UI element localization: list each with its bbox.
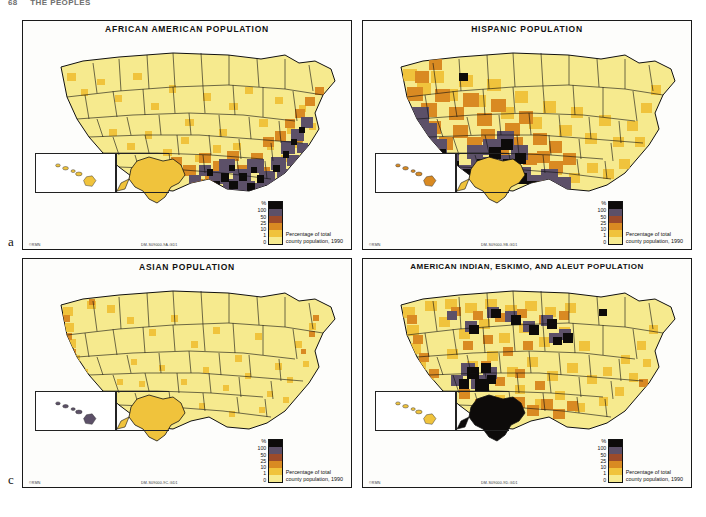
legend-swatch (609, 223, 622, 230)
legend-tick-labels: % 100 50 25 10 1 0 (595, 201, 606, 245)
legend-swatch (269, 223, 282, 230)
legend-color-ramp (268, 439, 283, 483)
panel-american-indian[interactable]: AMERICAN INDIAN, ESKIMO, AND ALEUT POPUL… (362, 258, 692, 488)
legend-swatch (269, 216, 282, 223)
map-code: DM-S09000-9B-GD1 (481, 243, 518, 247)
legend: % 100 50 25 10 1 0 Percen (255, 439, 343, 483)
panel-title: AMERICAN INDIAN, ESKIMO, AND ALEUT POPUL… (363, 262, 691, 271)
legend-swatch (269, 230, 282, 237)
legend-caption-line2: county population, 1990 (626, 238, 683, 245)
legend-caption-line2: county population, 1990 (626, 476, 683, 483)
legend-swatch (609, 202, 622, 209)
legend-swatch (609, 209, 622, 216)
legend-tick: 0 (255, 478, 266, 483)
map-code: DM-S09000-9C-GD1 (141, 481, 178, 485)
legend: % 100 50 25 10 1 0 Percen (255, 201, 343, 245)
legend-caption: Percentage of total county population, 1… (626, 469, 683, 484)
legend-caption: Percentage of total county population, 1… (286, 469, 343, 484)
legend-color-ramp (268, 201, 283, 245)
legend-swatch (609, 216, 622, 223)
alaska-inset (115, 153, 201, 215)
map-credit: ©RMN (369, 243, 381, 247)
panel-letter-a: a (8, 234, 14, 250)
hawaii-inset (375, 391, 457, 431)
legend-tick: 0 (255, 240, 266, 245)
legend-swatch (609, 461, 622, 468)
hawaii-inset (375, 153, 457, 193)
legend-scale: % 100 50 25 10 1 0 (595, 201, 623, 245)
legend-tick: 1 (595, 233, 606, 238)
legend: % 100 50 25 10 1 0 Percen (595, 439, 683, 483)
legend-swatch (609, 230, 622, 237)
legend: % 100 50 25 10 1 0 Percen (595, 201, 683, 245)
legend-tick: 100 (595, 446, 606, 451)
map-credit: ©RMN (29, 243, 41, 247)
legend-swatch (609, 468, 622, 475)
page-number: 68 (8, 0, 18, 7)
legend-color-ramp (608, 201, 623, 245)
legend-unit: % (255, 201, 266, 207)
legend-caption: Percentage of total county population, 1… (286, 231, 343, 246)
page-title: THE PEOPLES (30, 0, 90, 7)
legend-swatch (269, 468, 282, 475)
alaska-inset (455, 153, 541, 215)
panel-hispanic[interactable]: HISPANIC POPULATION (362, 20, 692, 250)
legend-tick-labels: % 100 50 25 10 1 0 (255, 201, 266, 245)
map-code: DM-S09000-9D-GD1 (481, 481, 518, 485)
legend-swatch (609, 447, 622, 454)
alaska-inset (115, 391, 201, 453)
legend-tick: 1 (255, 471, 266, 476)
map-credit: ©RMN (29, 481, 41, 485)
map-code: DM-S09000-9A-GD1 (141, 243, 178, 247)
legend-swatch (269, 447, 282, 454)
legend-swatch (609, 454, 622, 461)
legend-unit: % (595, 439, 606, 445)
legend-tick-labels: % 100 50 25 10 1 0 (595, 439, 606, 483)
alaska-inset (455, 391, 541, 453)
legend-tick: 50 (255, 215, 266, 220)
legend-caption-line1: Percentage of total (626, 469, 683, 476)
legend-unit: % (595, 201, 606, 207)
panel-letter-c: c (8, 472, 14, 488)
legend-tick: 50 (595, 215, 606, 220)
hawaii-inset (35, 391, 117, 431)
legend-tick-labels: % 100 50 25 10 1 0 (255, 439, 266, 483)
legend-caption-line2: county population, 1990 (286, 238, 343, 245)
legend-caption: Percentage of total county population, 1… (626, 231, 683, 246)
legend-swatch (269, 454, 282, 461)
legend-tick: 100 (255, 208, 266, 213)
legend-tick: 50 (255, 453, 266, 458)
legend-swatch (609, 440, 622, 447)
legend-tick: 100 (595, 208, 606, 213)
legend-tick: 50 (595, 453, 606, 458)
legend-tick: 100 (255, 446, 266, 451)
legend-scale: % 100 50 25 10 1 0 (255, 201, 283, 245)
legend-tick: 1 (255, 233, 266, 238)
legend-swatch (269, 440, 282, 447)
hawaii-inset (35, 153, 117, 193)
legend-swatch (609, 237, 622, 244)
legend-caption-line1: Percentage of total (286, 469, 343, 476)
map-credit: ©RMN (369, 481, 381, 485)
legend-swatch (269, 475, 282, 482)
legend-scale: % 100 50 25 10 1 0 (255, 439, 283, 483)
legend-tick: 1 (595, 471, 606, 476)
panel-african-american[interactable]: AFRICAN AMERICAN POPULATION (22, 20, 352, 250)
figure-population-maps: AFRICAN AMERICAN POPULATION (0, 8, 706, 508)
legend-color-ramp (608, 439, 623, 483)
legend-swatch (269, 461, 282, 468)
legend-swatch (609, 475, 622, 482)
legend-caption-line1: Percentage of total (626, 231, 683, 238)
panel-asian[interactable]: ASIAN POPULATION (22, 258, 352, 488)
legend-swatch (269, 237, 282, 244)
legend-caption-line2: county population, 1990 (286, 476, 343, 483)
legend-tick: 0 (595, 478, 606, 483)
legend-caption-line1: Percentage of total (286, 231, 343, 238)
legend-swatch (269, 202, 282, 209)
legend-scale: % 100 50 25 10 1 0 (595, 439, 623, 483)
legend-unit: % (255, 439, 266, 445)
page-header: 68 THE PEOPLES (8, 0, 91, 7)
legend-swatch (269, 209, 282, 216)
legend-tick: 0 (595, 240, 606, 245)
